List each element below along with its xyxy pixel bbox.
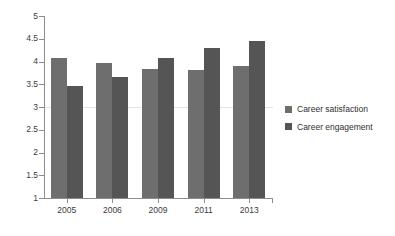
y-axis-tick [39,198,44,199]
x-axis-tick [204,199,205,203]
bar-career-engagement-2005 [67,86,83,198]
legend-item-career-satisfaction[interactable]: Career satisfaction [285,105,393,114]
x-axis-tick [112,199,113,203]
legend-label: Career engagement [297,123,373,132]
bar-career-engagement-2013 [249,41,265,198]
x-axis-tick-label: 2011 [184,206,224,215]
bar-career-engagement-2011 [204,48,220,198]
x-axis-tick-label: 2005 [47,206,87,215]
bars-layer [44,16,272,198]
x-axis-tick-label: 2009 [138,206,178,215]
legend-swatch-icon [285,123,292,130]
y-axis-tick-label: 4.5 [2,34,38,43]
x-axis-tick-label: 2013 [229,206,269,215]
bar-career-satisfaction-2009 [142,69,158,198]
y-axis-tick-label: 2.5 [2,125,38,134]
x-axis-tick [249,199,250,203]
y-axis-tick-label: 4 [2,57,38,66]
x-axis-tick [158,199,159,203]
chart-legend: Career satisfaction Career engagement [285,105,393,140]
legend-item-career-engagement[interactable]: Career engagement [285,123,393,132]
y-axis-tick-label: 1.5 [2,171,38,180]
bar-career-engagement-2009 [158,58,174,198]
y-axis-tick-label: 5 [2,12,38,21]
bar-career-satisfaction-2006 [96,63,112,198]
legend-swatch-icon [285,106,292,113]
bar-chart: 54.543.532.521.51 20052006200920112013 C… [0,0,395,236]
bar-career-satisfaction-2013 [233,66,249,198]
y-axis-tick-label: 3.5 [2,80,38,89]
bar-career-satisfaction-2005 [51,58,67,198]
legend-label: Career satisfaction [297,105,368,114]
y-axis-labels: 54.543.532.521.51 [0,0,38,236]
y-axis-tick-label: 1 [2,194,38,203]
bar-career-satisfaction-2011 [188,70,204,198]
y-axis-tick-label: 2 [2,148,38,157]
bar-career-engagement-2006 [112,77,128,198]
x-axis-tick-label: 2006 [92,206,132,215]
y-axis-tick-label: 3 [2,103,38,112]
x-axis-tick [67,199,68,203]
x-axis-tick [272,199,273,203]
